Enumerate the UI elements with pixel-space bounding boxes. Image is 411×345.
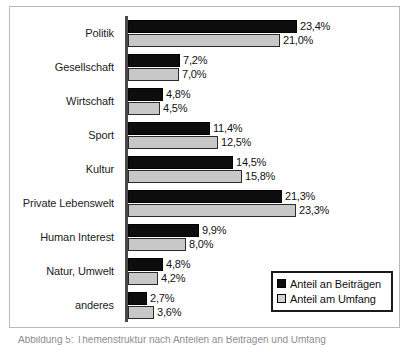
bar-value-label: 2,7% <box>150 293 174 304</box>
bar-group: 23,4%21,0% <box>128 16 395 50</box>
legend-label-beitraege: Anteil an Beiträgen <box>290 278 381 290</box>
bar <box>128 292 147 305</box>
bar-row: 21,0% <box>128 34 313 47</box>
bar-value-label: 7,0% <box>182 69 206 80</box>
bar-row: 8,0% <box>128 238 213 251</box>
bar-value-label: 23,3% <box>299 205 329 216</box>
bar <box>128 190 282 203</box>
bar <box>128 136 218 149</box>
bar-row: 15,8% <box>128 170 275 183</box>
bar-value-label: 3,6% <box>157 307 181 318</box>
bar-value-label: 23,4% <box>300 21 330 32</box>
bar-value-label: 4,8% <box>166 89 190 100</box>
figure-caption-text: Abbildung 5: Themenstruktur nach Anteile… <box>18 336 326 345</box>
chart-frame: PolitikGesellschaftWirtschaftSportKultur… <box>9 6 400 328</box>
bar <box>128 156 233 169</box>
bar-value-label: 4,8% <box>166 259 190 270</box>
category-label: Wirtschaft <box>66 95 114 107</box>
bar-row: 7,0% <box>128 68 206 81</box>
category-axis-labels: PolitikGesellschaftWirtschaftSportKultur… <box>10 16 121 322</box>
bar-group: 4,8%4,5% <box>128 84 395 118</box>
bar-group: 21,3%23,3% <box>128 186 395 220</box>
bar-row: 2,7% <box>128 292 174 305</box>
category-label: Natur, Umwelt <box>46 265 114 277</box>
bar <box>128 272 158 285</box>
category-label: Private Lebenswelt <box>23 197 114 209</box>
legend-entry-beitraege: Anteil an Beiträgen <box>277 276 386 291</box>
legend-label-umfang: Anteil am Umfang <box>290 293 376 305</box>
bar-row: 14,5% <box>128 156 266 169</box>
bar-row: 9,9% <box>128 224 226 237</box>
bar-row: 21,3% <box>128 190 315 203</box>
bar <box>128 88 163 101</box>
category-label: Gesellschaft <box>55 61 114 73</box>
category-label: Kultur <box>86 163 114 175</box>
bar-row: 4,2% <box>128 272 185 285</box>
bar-value-label: 15,8% <box>245 171 275 182</box>
category-label: Sport <box>88 129 114 141</box>
bar-value-label: 7,2% <box>183 55 207 66</box>
bar <box>128 238 186 251</box>
bar-value-label: 11,4% <box>213 123 242 134</box>
bar <box>128 204 296 217</box>
category-label: Politik <box>85 27 114 39</box>
bar-group: 14,5%15,8% <box>128 152 395 186</box>
bar-row: 4,5% <box>128 102 187 115</box>
bar <box>128 68 179 81</box>
bar-row: 23,3% <box>128 204 329 217</box>
legend-swatch-icon-beitraege <box>277 279 286 288</box>
bar-row: 7,2% <box>128 54 207 67</box>
category-label: Human Interest <box>40 231 114 243</box>
bar <box>128 34 280 47</box>
bar <box>128 54 180 67</box>
chart-legend: Anteil an Beiträgen Anteil am Umfang <box>271 271 393 312</box>
bar-group: 9,9%8,0% <box>128 220 395 254</box>
bar-value-label: 14,5% <box>236 157 266 168</box>
chart-page: PolitikGesellschaftWirtschaftSportKultur… <box>0 0 411 345</box>
bar <box>128 170 242 183</box>
legend-swatch-icon-umfang <box>277 294 286 303</box>
bar-group: 7,2%7,0% <box>128 50 395 84</box>
bar-group: 11,4%12,5% <box>128 118 395 152</box>
bar <box>128 224 199 237</box>
figure-caption: Abbildung 5: Themenstruktur nach Anteile… <box>18 336 398 345</box>
bar-value-label: 12,5% <box>221 137 251 148</box>
bar <box>128 102 160 115</box>
bar-value-label: 8,0% <box>189 239 213 250</box>
bar-row: 12,5% <box>128 136 251 149</box>
legend-entry-umfang: Anteil am Umfang <box>277 291 386 306</box>
bar <box>128 20 297 33</box>
bar-row: 4,8% <box>128 258 190 271</box>
bar-value-label: 21,0% <box>283 35 313 46</box>
category-label: anderes <box>75 299 114 311</box>
bar <box>128 122 210 135</box>
bar-row: 4,8% <box>128 88 190 101</box>
bar-value-label: 4,5% <box>163 103 187 114</box>
bar-row: 11,4% <box>128 122 242 135</box>
bar-row: 23,4% <box>128 20 330 33</box>
bar <box>128 306 154 319</box>
bar-value-label: 21,3% <box>285 191 315 202</box>
bar-value-label: 4,2% <box>161 273 185 284</box>
bar <box>128 258 163 271</box>
bar-row: 3,6% <box>128 306 181 319</box>
bar-value-label: 9,9% <box>202 225 226 236</box>
